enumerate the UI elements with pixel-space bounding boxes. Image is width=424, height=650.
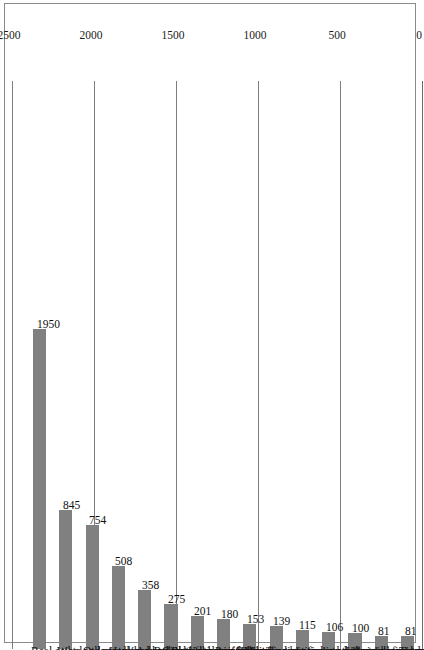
bar-value-label: 139 [273, 615, 290, 627]
bar [33, 329, 46, 649]
bar-value-label: 153 [247, 613, 264, 625]
bar-value-label: 180 [221, 608, 238, 620]
bar [112, 566, 125, 649]
bar [138, 590, 151, 649]
value-tick-label: 2500 [0, 29, 31, 41]
value-tick-label: 500 [315, 29, 359, 41]
bar-value-label: 81 [378, 625, 390, 637]
bar [59, 510, 72, 649]
bar [164, 604, 177, 649]
bar-value-label: 106 [326, 621, 343, 633]
bar-value-label: 100 [352, 622, 369, 634]
category-label: Transportation and warehousing [399, 645, 424, 650]
gridline [422, 81, 423, 649]
value-tick-label: 1000 [233, 29, 277, 41]
bar-value-label: 754 [89, 514, 106, 526]
bar-value-label: 115 [299, 619, 316, 631]
bar [86, 525, 99, 649]
value-tick-label: 1500 [151, 29, 195, 41]
value-tick-label: 2000 [69, 29, 113, 41]
bar-chart: 05001000150020002500 1950845754508358275… [12, 9, 422, 649]
bar-value-label: 358 [142, 579, 159, 591]
chart-rotation-wrapper: 05001000150020002500 1950845754508358275… [5, 4, 424, 650]
bar-series: 1950845754508358275201180153139115106100… [12, 81, 422, 649]
bar-value-label: 1950 [37, 318, 60, 330]
plot-area: 05001000150020002500 1950845754508358275… [12, 9, 422, 649]
value-tick-label: 0 [397, 29, 424, 41]
bar-value-label: 201 [194, 605, 211, 617]
bar-value-label: 81 [405, 625, 417, 637]
bar-value-label: 845 [63, 499, 80, 511]
chart-frame: 05001000150020002500 1950845754508358275… [4, 3, 416, 643]
bar-value-label: 275 [168, 593, 185, 605]
bar-value-label: 508 [115, 555, 132, 567]
